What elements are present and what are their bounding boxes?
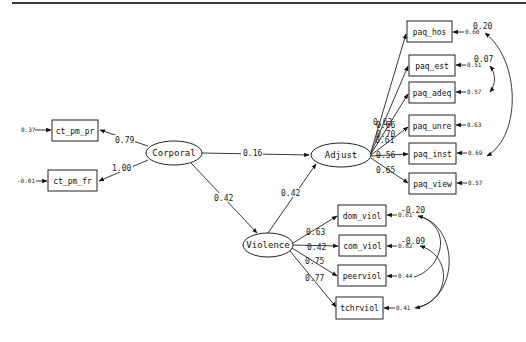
coef-corporal-violence: 0.42 <box>214 194 233 203</box>
observed-paq_unre: paq_unre <box>409 115 455 136</box>
coef-adjust-paq_unre: 0.61 <box>375 136 394 145</box>
coef-violence-peerviol: 0.75 <box>305 257 324 266</box>
label-com_viol: com_viol <box>343 242 382 251</box>
coef-violence-dom_viol: 0.63 <box>306 228 325 237</box>
covariance-dom_viol-tchrviol <box>415 216 449 308</box>
label-ct_pm_pr: ct_pm_pr <box>56 127 95 136</box>
cov-label-paq_est-paq_adeq: 0.07 <box>474 55 493 64</box>
label-violence: Violence <box>246 240 289 250</box>
sem-path-diagram: ct_pm_pr ct_pm_fr Corporal Adjust Violen… <box>0 0 526 342</box>
covariance-paq_hos-paq_inst <box>485 33 512 156</box>
coef-corporal-ct_pm_fr: 1.00 <box>112 164 131 173</box>
label-paq_hos: paq_hos <box>413 28 447 37</box>
coef-adjust-paq_adeq: 0.66 <box>376 121 395 130</box>
label-paq_view: paq_view <box>413 180 452 189</box>
error-paq_adeq: 0.57 <box>467 88 482 95</box>
edge-violence-adjust <box>268 164 316 233</box>
label-adjust: Adjust <box>325 150 358 160</box>
observed-ct_pm_pr: ct_pm_pr <box>52 120 98 141</box>
latent-violence: Violence <box>243 233 293 257</box>
covariance-paq_est-paq_adeq <box>490 66 495 92</box>
latent-corporal: Corporal <box>146 141 202 165</box>
coef-corporal-ct_pm_pr: 0.79 <box>115 136 134 145</box>
label-peerviol: peerviol <box>343 272 382 281</box>
label-paq_unre: paq_unre <box>413 122 452 131</box>
label-paq_est: paq_est <box>415 62 449 71</box>
error-paq_inst: 0.69 <box>468 149 483 156</box>
coef-violence-adjust: 0.42 <box>281 189 300 198</box>
coef-corporal-adjust: 0.16 <box>243 149 262 158</box>
observed-com_viol: com_viol <box>339 235 386 256</box>
coef-adjust-paq_view: 0.65 <box>376 166 395 175</box>
observed-peerviol: peerviol <box>338 265 386 286</box>
label-ct_pm_fr: ct_pm_fr <box>53 177 92 186</box>
observed-paq_adeq: paq_adeq <box>409 82 455 103</box>
observed-tchrviol: tchrviol <box>336 297 383 319</box>
covariance-dom_viol-peerviol-extra <box>414 216 441 277</box>
error-paq_unre: 0.63 <box>467 121 482 128</box>
observed-paq_inst: paq_inst <box>409 143 456 164</box>
covariance-com_viol-curve <box>416 246 444 308</box>
label-tchrviol: tchrviol <box>340 304 379 313</box>
cov-label-dom_viol-tchrviol: -0.20 <box>401 206 425 215</box>
error-ct_pm_pr: 0.37 <box>21 126 36 133</box>
observed-paq_hos: paq_hos <box>407 21 452 42</box>
coef-violence-com_viol: 0.42 <box>307 243 326 252</box>
label-dom_viol: dom_viol <box>343 212 382 221</box>
observed-paq_est: paq_est <box>409 55 455 76</box>
observed-paq_view: paq_view <box>409 173 456 194</box>
error-tchrviol: 0.41 <box>396 304 411 311</box>
error-ct_pm_fr: -0.01 <box>17 177 35 184</box>
error-peerviol: 0.44 <box>398 272 413 279</box>
coef-adjust-paq_inst: 0.56 <box>376 151 395 160</box>
coef-violence-tchrviol: 0.77 <box>305 274 324 283</box>
observed-dom_viol: dom_viol <box>338 205 386 226</box>
label-corporal: Corporal <box>152 148 195 158</box>
label-paq_inst: paq_inst <box>413 150 452 159</box>
observed-ct_pm_fr: ct_pm_fr <box>48 170 97 191</box>
cov-label-com_viol-peerviol: -0.09 <box>401 237 425 246</box>
label-paq_adeq: paq_adeq <box>413 89 452 98</box>
latent-adjust: Adjust <box>311 143 371 167</box>
cov-label-paq_hos-paq_inst: 0.20 <box>473 22 492 31</box>
error-paq_view: 0.57 <box>468 179 483 186</box>
